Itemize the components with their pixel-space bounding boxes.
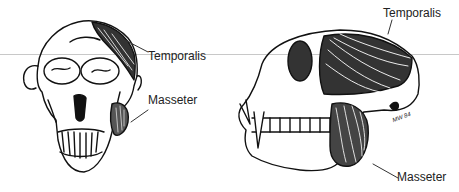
side-temporalis-label: Temporalis	[383, 6, 441, 20]
side-masseter-label: Masseter	[397, 170, 446, 184]
front-temporalis-label: Temporalis	[148, 49, 206, 63]
front-masseter-label: Masseter	[148, 93, 197, 107]
skull-illustrations	[0, 0, 459, 192]
skull-muscle-diagram: Temporalis Masseter Temporalis Masseter …	[0, 0, 459, 192]
